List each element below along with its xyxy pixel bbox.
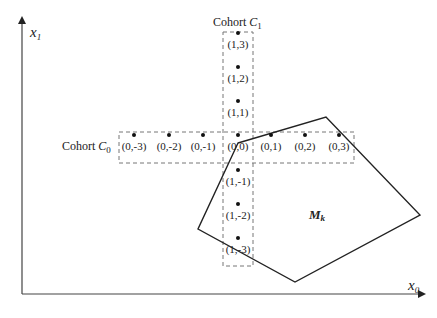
- region-mk-label: Mk: [308, 207, 326, 223]
- point-label: (1,-1): [226, 175, 251, 188]
- point-label: (0,0): [227, 140, 248, 153]
- point-label: (0,3): [328, 140, 349, 153]
- point-dot: [132, 133, 136, 137]
- point-label: (0,-2): [157, 140, 182, 153]
- point-dot: [236, 236, 240, 240]
- point-label: (1,2): [227, 72, 248, 85]
- point-dot: [167, 133, 171, 137]
- point-dot: [236, 65, 240, 69]
- point-dot: [201, 133, 205, 137]
- point-label: (1,-3): [226, 243, 251, 256]
- point-dot: [236, 31, 240, 35]
- point-dot: [236, 133, 240, 137]
- cohort-diagram: x1 x0 Cohort C0 Cohort C1 Mk (0,-3)(0,-2…: [0, 0, 437, 318]
- point-dot: [236, 168, 240, 172]
- point-dot: [303, 133, 307, 137]
- x-axis-label: x0: [407, 277, 420, 295]
- lattice-points: (0,-3)(0,-2)(0,-1)(0,0)(0,1)(0,2)(0,3)(1…: [122, 31, 350, 256]
- point-label: (0,-1): [191, 140, 216, 153]
- point-dot: [269, 133, 273, 137]
- point-label: (0,-3): [122, 140, 147, 153]
- point-label: (1,-2): [226, 209, 251, 222]
- point-label: (0,1): [260, 140, 281, 153]
- point-label: (0,2): [294, 140, 315, 153]
- point-label: (1,3): [227, 38, 248, 51]
- y-axis-label: x1: [29, 24, 41, 42]
- point-label: (1,1): [227, 106, 248, 119]
- point-dot: [236, 99, 240, 103]
- point-dot: [337, 133, 341, 137]
- cohort-c0-label: Cohort C0: [62, 139, 111, 155]
- cohort-c1-label: Cohort C1: [213, 15, 262, 31]
- point-dot: [236, 202, 240, 206]
